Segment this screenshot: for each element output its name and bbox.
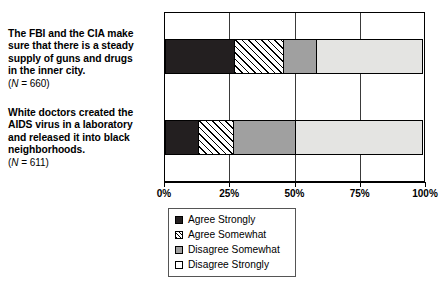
legend-item-agree-strongly[interactable]: Agree Strongly xyxy=(175,212,289,227)
legend-swatch-agree-strongly-icon xyxy=(175,216,183,224)
legend-item-disagree-strongly[interactable]: Disagree Strongly xyxy=(175,257,289,272)
category-label-line: supply of guns and drugs xyxy=(8,53,133,64)
bar-fbi-cia xyxy=(165,39,426,74)
category-label-line: The FBI and the CIA make xyxy=(8,28,133,39)
bar-segment-disagree-somewhat xyxy=(283,39,317,74)
legend-item-agree-somewhat[interactable]: Agree Somewhat xyxy=(175,227,289,242)
legend-swatch-disagree-somewhat-icon xyxy=(175,246,183,254)
axis-tick-label-75: 75% xyxy=(350,188,370,199)
bar-segment-agree-strongly xyxy=(165,39,235,74)
category-label-line: White doctors created the xyxy=(8,107,133,118)
legend-swatch-disagree-strongly-icon xyxy=(175,261,183,269)
legend-item-disagree-somewhat[interactable]: Disagree Somewhat xyxy=(175,242,289,257)
axis-tick-75 xyxy=(360,182,361,187)
axis-tick-label-25: 25% xyxy=(219,188,239,199)
legend-swatch-agree-somewhat-icon xyxy=(175,231,183,239)
legend-label: Agree Somewhat xyxy=(188,229,266,240)
bar-segment-agree-strongly xyxy=(165,120,199,155)
bar-segment-disagree-strongly xyxy=(316,39,423,74)
sample-size-fbi-cia: (N = 660) xyxy=(8,78,158,90)
category-label-line: AIDS virus in a laboratory xyxy=(8,119,133,130)
bar-segment-disagree-somewhat xyxy=(233,120,296,155)
category-label-line: in the inner city. xyxy=(8,65,85,76)
category-label-fbi-cia: The FBI and the CIA make sure that there… xyxy=(8,28,158,90)
legend-label: Agree Strongly xyxy=(188,214,255,225)
bar-segment-agree-somewhat xyxy=(234,39,284,74)
stacked-bar-chart: The FBI and the CIA make sure that there… xyxy=(0,0,445,282)
category-label-line: and released it into black xyxy=(8,132,130,143)
axis-tick-50 xyxy=(295,182,296,187)
legend-label: Disagree Strongly xyxy=(188,259,269,270)
category-label-aids: White doctors created the AIDS virus in … xyxy=(8,107,158,169)
category-label-line: neighborhoods. xyxy=(8,144,85,155)
bar-segment-agree-somewhat xyxy=(198,120,235,155)
bar-aids xyxy=(165,120,426,155)
plot-area xyxy=(164,12,425,182)
legend: Agree StronglyAgree SomewhatDisagree Som… xyxy=(168,208,296,277)
axis-tick-25 xyxy=(229,182,230,187)
bar-segment-disagree-strongly xyxy=(295,120,423,155)
sample-size-aids: (N = 611) xyxy=(8,157,158,169)
axis-tick-0 xyxy=(164,182,165,187)
legend-label: Disagree Somewhat xyxy=(188,244,280,255)
axis-tick-100 xyxy=(425,182,426,187)
category-label-line: sure that there is a steady xyxy=(8,40,134,51)
axis-tick-label-100: 100% xyxy=(412,188,438,199)
axis-tick-label-0: 0% xyxy=(157,188,171,199)
axis-tick-label-50: 50% xyxy=(284,188,304,199)
